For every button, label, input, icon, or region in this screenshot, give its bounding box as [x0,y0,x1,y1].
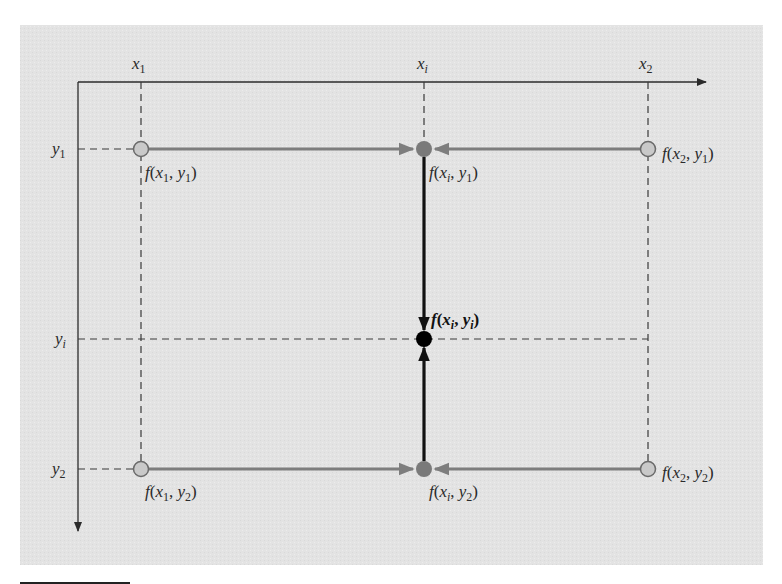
node-f-x2-y2 [641,462,656,477]
node-f-x1-y2 [134,462,149,477]
node-f-x2-y1 [641,142,656,157]
node-f-xi-yi [416,331,432,347]
node-f-x1-y1 [134,142,149,157]
bilinear-interpolation-diagram: x1 xi x2 y1 yi y2 f(x1, y1) f(xi, y1) f(… [0,0,782,584]
node-f-xi-y1 [416,141,432,157]
panel-background [20,25,763,565]
node-f-xi-y2 [416,461,432,477]
